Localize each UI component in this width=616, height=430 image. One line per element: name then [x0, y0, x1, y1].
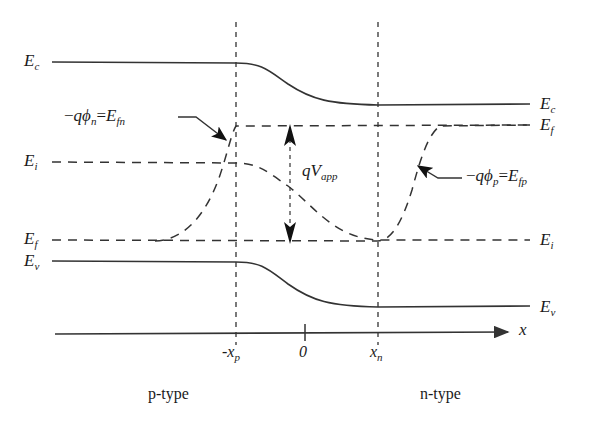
region-label-n-type: n-type: [420, 386, 461, 402]
axis-tick-label-minus-xp: -xp: [222, 344, 240, 363]
label-right-ev: Ev: [540, 298, 555, 318]
label-left-ec: Ec: [24, 52, 39, 72]
label-right-ei: Ei: [540, 231, 553, 251]
annotation-qphi-p: −qϕp=Efp: [466, 167, 527, 187]
curve-conduction-band: [52, 62, 530, 105]
axis-tick-label-xn: xn: [370, 344, 383, 363]
region-label-p-type: p-type: [148, 386, 189, 402]
annotation-qphi-n: −qϕn=Efn: [64, 107, 125, 127]
curve-quasi-fermi-hole: [52, 125, 530, 241]
annotation-qvapp: qVapp: [302, 162, 337, 182]
axis-label-x: x: [519, 321, 527, 338]
qphin-leader-line: [178, 117, 226, 140]
band-diagram-canvas: [0, 0, 616, 430]
label-left-ei: Ei: [24, 152, 37, 172]
axis-tick-label-zero: 0: [299, 344, 307, 360]
x-axis-line: [55, 332, 508, 334]
curve-valence-band: [52, 261, 530, 307]
label-left-ef: Ef: [24, 230, 37, 250]
band-diagram-figure: Ec Ei Ef Ev Ec Ef Ei Ev −qϕn=Efn −qϕp=Ef…: [0, 0, 616, 430]
label-right-ef: Ef: [540, 116, 553, 136]
qphip-leader-line: [418, 166, 462, 178]
label-left-ev: Ev: [24, 252, 39, 272]
label-right-ec: Ec: [540, 95, 555, 115]
